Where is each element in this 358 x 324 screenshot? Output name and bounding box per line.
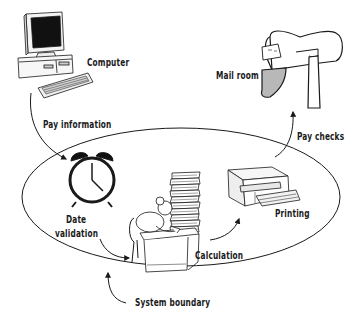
label-validation: validation bbox=[55, 228, 98, 239]
arrow-pay-checks bbox=[275, 112, 293, 157]
arrow-validation-to-calculation bbox=[100, 239, 129, 258]
computer-icon bbox=[18, 12, 93, 98]
system-boundary-diagram: Computer Pay information Mail room Pay c… bbox=[0, 0, 358, 324]
alarm-clock-icon bbox=[70, 153, 114, 207]
label-mail-room: Mail room bbox=[216, 70, 259, 81]
worker-at-desk-icon bbox=[130, 172, 201, 272]
label-pay-checks: Pay checks bbox=[297, 131, 344, 142]
mailbox-icon bbox=[261, 31, 342, 108]
label-printing: Printing bbox=[275, 208, 310, 219]
label-system-boundary: System boundary bbox=[135, 297, 210, 308]
label-calculation: Calculation bbox=[195, 250, 243, 261]
diagram-artwork bbox=[0, 0, 358, 324]
label-date: Date bbox=[66, 214, 86, 225]
arrow-calculation-to-printing bbox=[210, 219, 239, 240]
arrow-system-boundary bbox=[108, 273, 126, 303]
printer-icon bbox=[228, 167, 300, 206]
label-computer: Computer bbox=[87, 57, 129, 68]
label-pay-information: Pay information bbox=[43, 119, 111, 130]
